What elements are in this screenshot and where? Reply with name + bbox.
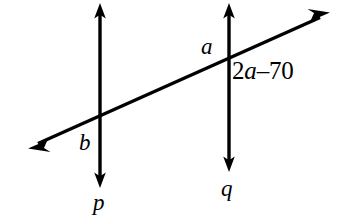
line-p (94, 3, 106, 188)
angle-label-a: a (201, 35, 213, 58)
expression-variable: a (244, 57, 256, 84)
expression-suffix: –70 (257, 57, 294, 84)
line-label-p: p (93, 191, 105, 214)
angle-label-b: b (79, 131, 91, 154)
line-label-q: q (221, 177, 233, 200)
line-q (223, 3, 235, 172)
geometry-diagram: a b 2a–70 p q (0, 0, 353, 220)
geometry-canvas (0, 0, 353, 220)
angle-label-expression: 2a–70 (232, 58, 294, 83)
expression-prefix: 2 (232, 57, 244, 84)
